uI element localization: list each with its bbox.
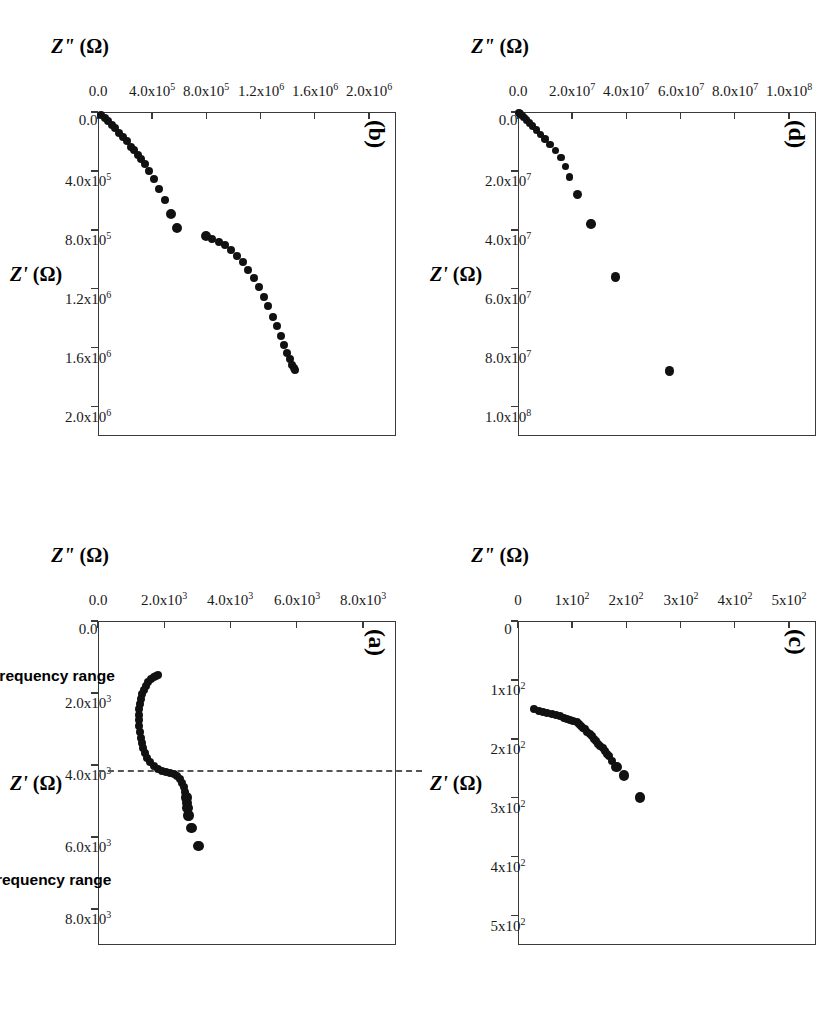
data-point (557, 153, 565, 161)
x-tick-label: 2.0x107 (485, 170, 531, 189)
y-tick-label: 1x102 (555, 590, 590, 609)
x-tick-label: 2.0x106 (65, 406, 111, 425)
data-point (145, 166, 153, 174)
y-tick-label: 6.0x107 (657, 81, 703, 100)
x-axis-title: Z' (Ω) (10, 262, 62, 285)
y-tick-label: 1.0x108 (766, 81, 812, 100)
y-tick (572, 621, 573, 628)
x-tick-label: 4.0x103 (65, 765, 111, 784)
y-tick-label: 8.0x103 (340, 590, 386, 609)
y-tick-label: 1.2x106 (237, 81, 283, 100)
y-tick-label: 4.0x105 (129, 81, 175, 100)
y-tick-label: 0 (514, 592, 522, 609)
y-tick-label: 8.0x107 (712, 81, 758, 100)
y-axis-title: Z" (Ω) (471, 543, 529, 566)
y-tick (97, 621, 98, 628)
low-frequency-range-label: low frequency range (0, 871, 111, 889)
data-point (250, 274, 258, 282)
x-tick-label: 1x102 (491, 679, 526, 698)
data-point (186, 822, 197, 833)
frequency-divider-dashed-line (98, 770, 422, 772)
data-point (546, 140, 554, 148)
panel-c-label: (c) (783, 629, 810, 654)
data-point (562, 162, 570, 170)
data-point (566, 173, 574, 181)
y-tick-label: 4.0x107 (603, 81, 649, 100)
y-tick (164, 621, 165, 628)
y-tick-label: 2.0x103 (141, 590, 187, 609)
y-tick (572, 112, 573, 119)
data-point (552, 146, 560, 154)
panel-a: (a) 0.02.0x1034.0x1036.0x1038.0x1030.02.… (0, 509, 420, 1018)
data-point (150, 175, 158, 183)
data-point (273, 322, 281, 330)
data-point (255, 283, 263, 291)
x-axis-title: Z' (Ω) (10, 771, 62, 794)
x-tick-label: 8.0x103 (65, 909, 111, 928)
x-tick-label: 4.0x107 (485, 229, 531, 248)
x-tick-label: 1.0x108 (485, 406, 531, 425)
x-tick-label: 0.0 (79, 112, 98, 129)
y-tick-label: 4x102 (717, 590, 752, 609)
x-tick-label: 6.0x103 (65, 837, 111, 856)
panel-a-plot-frame (98, 621, 396, 945)
y-tick-label: 8.0x105 (183, 81, 229, 100)
x-tick-label: 2.0x103 (65, 693, 111, 712)
y-tick-label: 0.0 (89, 83, 108, 100)
data-point (280, 340, 288, 348)
y-tick (680, 621, 681, 628)
x-tick-label: 0 (504, 621, 512, 638)
figure-canvas: (b) 0.04.0x1058.0x1051.2x1061.6x1062.0x1… (0, 0, 840, 1018)
panel-c-rotated-figure: (c) 01x1022x1023x1024x1025x10201x1022x10… (430, 529, 830, 999)
x-tick-label: 0.0 (79, 621, 98, 638)
panel-b-rotated-figure: (b) 0.04.0x1058.0x1051.2x1061.6x1062.0x1… (10, 20, 410, 490)
y-tick-label: 0.0 (89, 592, 108, 609)
panel-a-rotated-figure: (a) 0.02.0x1034.0x1036.0x1038.0x1030.02.… (10, 529, 410, 999)
data-point (619, 770, 630, 781)
y-tick-label: 2x102 (609, 590, 644, 609)
panel-c-plot-frame (518, 621, 816, 945)
y-tick (734, 621, 735, 628)
y-tick (788, 112, 789, 119)
data-point (260, 292, 268, 300)
y-tick (626, 621, 627, 628)
y-axis-title: Z" (Ω) (471, 34, 529, 57)
y-tick (206, 112, 207, 119)
data-point (291, 366, 299, 374)
panel-d: (d) 0.02.0x1074.0x1076.0x1078.0x1071.0x1… (420, 0, 840, 509)
data-point (573, 189, 583, 199)
data-point (193, 840, 204, 851)
x-tick-label: 6.0x107 (485, 288, 531, 307)
x-axis-title: Z' (Ω) (430, 262, 482, 285)
y-tick-label: 0.0 (509, 83, 528, 100)
y-tick-label: 6.0x103 (274, 590, 320, 609)
x-tick-label: 1.6x106 (65, 347, 111, 366)
x-tick-label: 2x102 (491, 738, 526, 757)
y-tick (152, 112, 153, 119)
y-tick-label: 5x102 (771, 590, 806, 609)
data-point (611, 272, 621, 282)
data-point (665, 366, 675, 376)
x-axis-title: Z' (Ω) (430, 771, 482, 794)
y-axis-title: Z" (Ω) (51, 34, 109, 57)
y-tick (680, 112, 681, 119)
data-point (277, 331, 285, 339)
y-axis-title: Z" (Ω) (51, 543, 109, 566)
x-tick-label: 4.0x105 (65, 170, 111, 189)
y-tick (626, 112, 627, 119)
y-tick-label: 4.0x103 (207, 590, 253, 609)
high-frequency-range-label: high frequency range (0, 667, 115, 685)
x-tick-label: 1.2x106 (65, 288, 111, 307)
data-point (586, 219, 596, 229)
y-tick (230, 621, 231, 628)
data-point (239, 258, 247, 266)
y-tick (362, 621, 363, 628)
x-tick-label: 5x102 (491, 915, 526, 934)
x-tick-label: 8.0x105 (65, 229, 111, 248)
panel-d-label: (d) (783, 120, 810, 148)
panel-d-rotated-figure: (d) 0.02.0x1074.0x1076.0x1078.0x1071.0x1… (430, 20, 830, 490)
data-point (269, 312, 277, 320)
y-tick-label: 2.0x107 (549, 81, 595, 100)
data-point (161, 196, 169, 204)
y-tick (734, 112, 735, 119)
